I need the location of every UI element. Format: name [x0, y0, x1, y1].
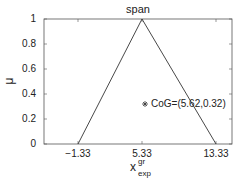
x-tick-label: 13.33 [196, 148, 236, 159]
x-axis-label-sub: exp [138, 169, 151, 178]
y-tick-label: 1 [6, 13, 36, 24]
y-tick-label: 0.6 [6, 63, 36, 74]
membership-line [78, 19, 216, 144]
y-tick-label: 0.4 [6, 88, 36, 99]
y-tick-label: 0.8 [6, 38, 36, 49]
x-axis-label: x gr exp [130, 160, 136, 174]
cog-marker [142, 101, 148, 107]
axes-box [44, 19, 232, 144]
plot-area [0, 0, 246, 190]
x-axis-label-sup: gr [138, 157, 145, 166]
y-tick-label: 0.2 [6, 113, 36, 124]
y-tick-label: 0 [6, 138, 36, 149]
y-axis-label: μ [2, 78, 16, 85]
x-ticks [78, 19, 216, 144]
x-axis-label-base: x [130, 160, 136, 174]
cog-annotation: CoG=(5.62,0.32) [151, 98, 226, 109]
y-ticks [44, 19, 232, 144]
x-tick-label: −1.33 [58, 148, 98, 159]
